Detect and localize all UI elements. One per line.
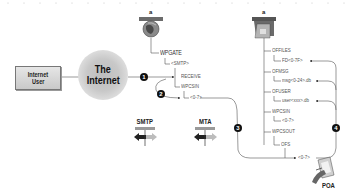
internet-user-line2: User [32,78,44,85]
internet-cloud: The Internet [78,50,128,100]
internet-user-box: Internet User [15,66,61,90]
mta-label: MTA [199,118,211,125]
internet-user-line1: Internet [28,71,48,78]
po-offiles-label: OFFILES [272,48,291,54]
post-office-icon [252,17,276,38]
mta-arrows-icon [194,130,217,146]
gateway-icon-letter: a [149,9,152,15]
post-office-icon-letter: a [262,9,265,15]
po-wpcsin-label: WPCSIN [272,109,290,115]
po-ofuser-label: OFUSER [272,89,291,95]
smtp-protocol: SMTP [130,118,160,130]
gateway-receive-label: RECEIVE [181,74,201,80]
poa-label: POA [322,182,335,189]
cloud-line2: Internet [86,75,119,86]
step-badge-4: 4 [332,124,340,132]
gateway-wpcsin-sub: <0-7> [190,95,202,101]
po-wpcsin-sub: <0-7> [282,118,294,124]
po-ofmsg-sub: msg<0-24>.db [282,78,311,84]
po-wpcsout-sub: OFS [281,142,290,148]
diagram-canvas: Internet User The Internet a a WPGATE <S… [0,0,356,195]
gateway-root-label: WPGATE [160,50,182,57]
po-offiles-sub: FD<0-7F> [282,58,303,64]
smtp-bar [135,127,155,130]
step-badge-2: 2 [157,90,165,98]
smtp-label: SMTP [137,118,154,125]
step-badge-1: 1 [140,73,148,81]
gateway-smtp-label: <SMTP> [171,61,189,67]
step-badge-3: 3 [234,124,242,132]
mta-bar [195,127,215,130]
po-wpcsout-label: WPCSOUT [272,129,295,135]
gateway-wpcsin-label: WPCSIN [181,84,199,90]
po-ofmsg-label: OFMSG [272,69,289,75]
globe-gateway-icon [139,17,163,37]
mta-protocol: MTA [190,118,220,130]
po-wpcsout-sub2: <0-7> [298,155,310,161]
po-ofuser-sub: user<xxx>.db [282,98,309,104]
smtp-arrows-icon [134,130,157,146]
poa-icon [312,157,334,184]
